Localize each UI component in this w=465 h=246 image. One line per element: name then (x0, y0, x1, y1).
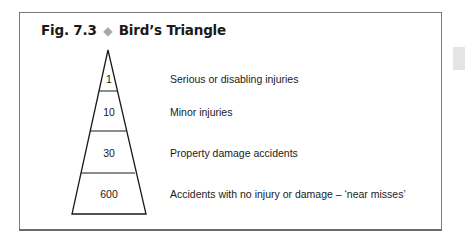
side-tab (453, 47, 465, 70)
level-4-value: 600 (79, 188, 139, 200)
level-2-label: Minor injuries (170, 106, 232, 118)
level-3-label: Property damage accidents (170, 147, 298, 159)
level-1-label: Serious or disabling injuries (170, 73, 298, 85)
level-2-value: 10 (79, 106, 139, 118)
pyramid-triangle (0, 0, 465, 246)
level-1-value: 1 (79, 73, 139, 85)
level-3-value: 30 (79, 147, 139, 159)
level-4-label: Accidents with no injury or damage – ‘ne… (170, 188, 406, 200)
